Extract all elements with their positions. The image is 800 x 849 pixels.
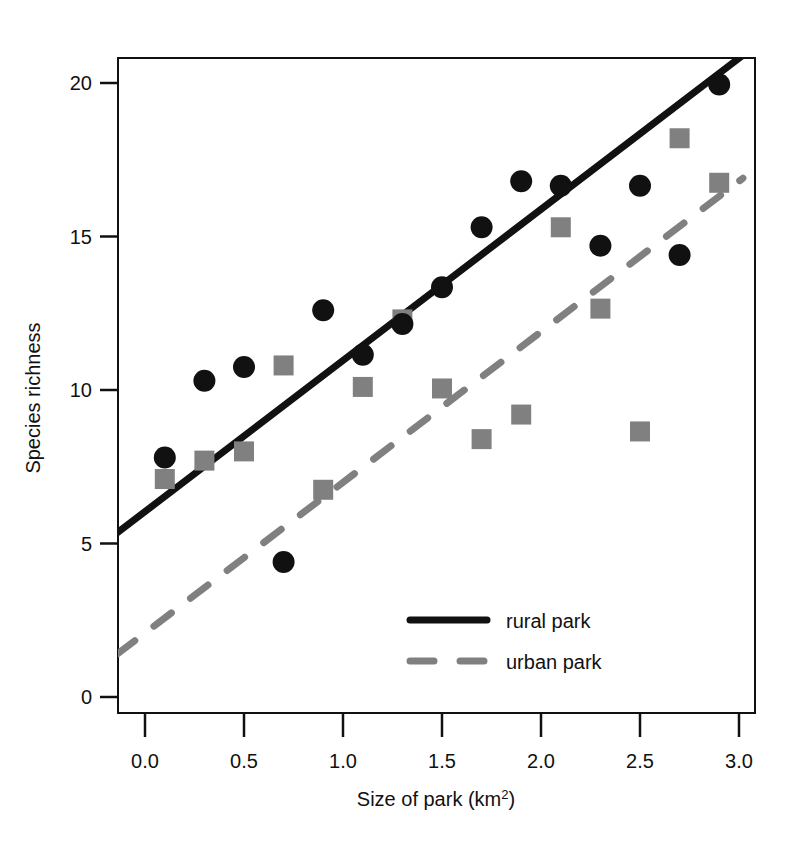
- rural-park-point: [312, 299, 334, 321]
- x-tick-label: 2.0: [527, 750, 555, 772]
- x-axis-ticks: 0.00.51.01.52.02.53.0: [131, 713, 753, 772]
- rural-park-point: [471, 216, 493, 238]
- x-tick-label: 3.0: [725, 750, 753, 772]
- rural-park-point: [154, 447, 176, 469]
- y-axis-ticks: 05101520: [70, 72, 118, 708]
- legend-label-urban-park: urban park: [506, 651, 603, 673]
- urban-park-point: [313, 480, 333, 500]
- urban-park-point: [670, 128, 690, 148]
- y-tick-label: 15: [70, 226, 92, 248]
- urban-park-point: [551, 217, 571, 237]
- rural-park-point: [708, 74, 730, 96]
- y-tick-label: 0: [81, 686, 92, 708]
- urban-park-point: [709, 173, 729, 193]
- rural-park-point: [391, 313, 413, 335]
- urban-park-point: [432, 378, 452, 398]
- rural-park-point: [431, 276, 453, 298]
- urban-park-point: [155, 469, 175, 489]
- urban-park-point: [353, 377, 373, 397]
- urban-park-point: [472, 429, 492, 449]
- rural-park-point: [669, 244, 691, 266]
- x-tick-label: 1.5: [428, 750, 456, 772]
- rural-park-point: [629, 175, 651, 197]
- y-axis-title: Species richness: [22, 322, 44, 473]
- rural-park-point: [193, 370, 215, 392]
- x-tick-label: 2.5: [626, 750, 654, 772]
- legend-label-rural-park: rural park: [506, 610, 591, 632]
- rural-park-point: [510, 170, 532, 192]
- x-tick-label: 0.0: [131, 750, 159, 772]
- y-tick-label: 20: [70, 72, 92, 94]
- rural-park-point: [233, 356, 255, 378]
- x-axis-title: Size of park (km2): [357, 787, 515, 810]
- urban-park-point: [590, 299, 610, 319]
- urban-park-point: [274, 355, 294, 375]
- y-tick-label: 5: [81, 533, 92, 555]
- x-tick-label: 0.5: [230, 750, 258, 772]
- scatter-plot-figure: 05101520 0.00.51.01.52.02.53.0 rural par…: [0, 0, 800, 849]
- x-tick-label: 1.0: [329, 750, 357, 772]
- rural-park-point: [550, 175, 572, 197]
- urban-park-point: [511, 405, 531, 425]
- rural-park-point: [273, 551, 295, 573]
- urban-park-point: [234, 441, 254, 461]
- chart-canvas: 05101520 0.00.51.01.52.02.53.0 rural par…: [0, 0, 800, 849]
- rural-park-point: [589, 235, 611, 257]
- rural-park-point: [352, 344, 374, 366]
- y-tick-label: 10: [70, 379, 92, 401]
- urban-park-point: [194, 451, 214, 471]
- urban-park-point: [630, 421, 650, 441]
